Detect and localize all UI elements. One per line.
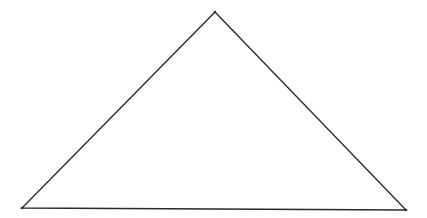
apex-vertex (214, 11, 216, 13)
bottom-right-vertex (405, 209, 407, 211)
triangle-diagram (0, 0, 427, 218)
diagram-canvas (0, 0, 427, 218)
bottom-left-vertex (21, 207, 23, 209)
triangle (22, 12, 406, 210)
